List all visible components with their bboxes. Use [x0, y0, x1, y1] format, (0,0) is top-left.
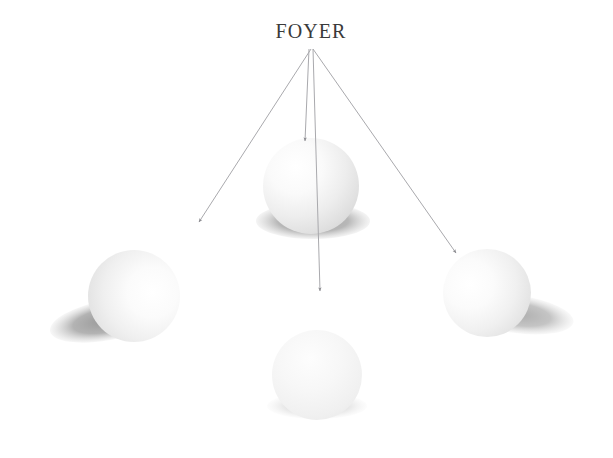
sphere-bottom [272, 330, 362, 420]
spheres [88, 138, 531, 420]
figure-canvas: FOYER [0, 0, 613, 458]
foyer-label: FOYER [275, 20, 346, 42]
sphere-left [88, 250, 180, 342]
figure-illustration: FOYER [0, 0, 613, 458]
sphere-top [263, 138, 359, 234]
sphere-right [443, 249, 531, 337]
ray-to-top-sphere [305, 49, 309, 141]
